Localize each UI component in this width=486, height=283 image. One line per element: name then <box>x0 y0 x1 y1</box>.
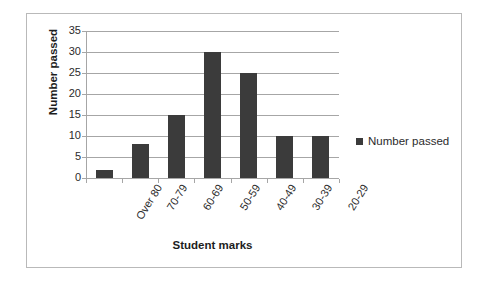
x-axis-tick-labels: Over 8070-7960-6950-5940-4930-3920-29 <box>86 182 346 242</box>
bar <box>204 52 221 178</box>
y-tick-label: 30 <box>51 46 81 57</box>
bar <box>132 144 149 178</box>
x-tick-label: 60-69 <box>201 182 226 212</box>
legend-label: Number passed <box>368 135 449 147</box>
legend: Number passed <box>356 135 449 147</box>
y-tick-label: 25 <box>51 67 81 78</box>
x-tick-label: 30-39 <box>309 182 334 212</box>
y-axis-tick-labels: 05101520253035 <box>45 31 81 178</box>
y-tick-label: 15 <box>51 109 81 120</box>
y-tick-label: 20 <box>51 88 81 99</box>
x-axis-title: Student marks <box>86 239 339 251</box>
x-tick-label: 70-79 <box>164 182 189 212</box>
y-tick-label: 10 <box>51 130 81 141</box>
bar <box>312 136 329 178</box>
bar <box>168 115 185 178</box>
plot-area <box>86 31 339 178</box>
y-tick-label: 35 <box>51 25 81 36</box>
y-tick-label: 0 <box>51 172 81 183</box>
legend-swatch-icon <box>356 138 363 145</box>
x-tick-label: 20-29 <box>345 182 370 212</box>
x-tick-label: 40-49 <box>273 182 298 212</box>
y-tick-label: 5 <box>51 151 81 162</box>
bar <box>276 136 293 178</box>
bars-group <box>86 31 339 178</box>
bar <box>96 170 113 178</box>
chart-frame: Number passed 05101520253035 Over 8070-7… <box>26 13 462 268</box>
x-tick-label: 50-59 <box>237 182 262 212</box>
x-tick-label: Over 80 <box>133 182 164 222</box>
x-axis-line <box>86 178 339 179</box>
bar <box>240 73 257 178</box>
